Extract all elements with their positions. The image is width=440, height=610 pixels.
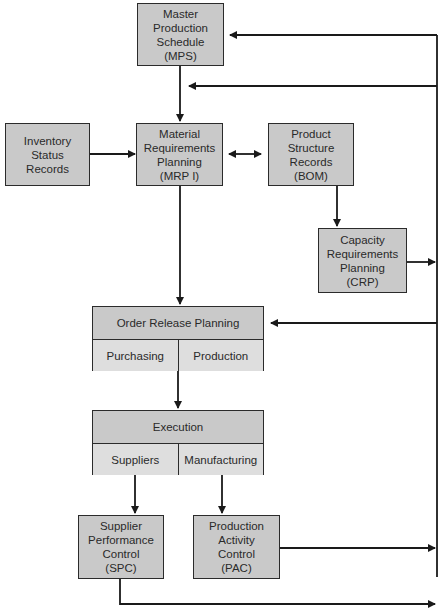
node-mrp-line: (MRP I) [160, 169, 199, 183]
node-spc: Supplier Performance Control (SPC) [78, 515, 164, 579]
node-bom-line: (BOM) [294, 169, 328, 183]
node-pac: Production Activity Control (PAC) [193, 515, 280, 579]
order-release-production: Production [178, 340, 264, 371]
node-execution: Execution Suppliers Manufacturing [92, 410, 264, 475]
order-release-purchasing: Purchasing [93, 340, 178, 371]
node-mps: Master Production Schedule (MPS) [137, 3, 224, 66]
node-spc-line: Supplier [100, 519, 142, 533]
edge-spc-feedback [120, 578, 435, 604]
node-spc-line: Performance [88, 533, 154, 547]
node-crp-line: Requirements [327, 247, 399, 261]
node-pac-line: Control [218, 547, 255, 561]
execution-manufacturing: Manufacturing [178, 444, 264, 475]
node-pac-line: (PAC) [221, 561, 251, 575]
node-spc-line: (SPC) [105, 561, 136, 575]
node-mps-line: (MPS) [164, 49, 197, 63]
node-crp-line: Planning [340, 261, 385, 275]
node-inventory: Inventory Status Records [5, 123, 90, 186]
node-pac-line: Production [209, 519, 264, 533]
node-crp-line: Capacity [340, 233, 385, 247]
node-bom-line: Structure [288, 141, 335, 155]
node-spc-line: Control [102, 547, 139, 561]
execution-title: Execution [93, 411, 263, 444]
node-bom-line: Records [290, 155, 333, 169]
node-crp-line: (CRP) [347, 275, 379, 289]
node-inventory-line: Inventory [24, 134, 71, 148]
order-release-cells: Purchasing Production [93, 340, 263, 371]
order-release-title: Order Release Planning [93, 307, 263, 340]
node-inventory-line: Status [31, 148, 64, 162]
node-mps-line: Master [163, 7, 198, 21]
node-mrp-line: Planning [157, 155, 202, 169]
node-bom-line: Product [291, 127, 331, 141]
execution-suppliers: Suppliers [93, 444, 178, 475]
execution-cells: Suppliers Manufacturing [93, 444, 263, 475]
node-crp: Capacity Requirements Planning (CRP) [318, 228, 407, 293]
node-mrp-line: Requirements [144, 141, 216, 155]
node-bom: Product Structure Records (BOM) [268, 123, 354, 186]
node-mps-line: Schedule [157, 35, 205, 49]
node-order-release: Order Release Planning Purchasing Produc… [92, 306, 264, 371]
node-mrp: Material Requirements Planning (MRP I) [136, 123, 223, 186]
node-pac-line: Activity [218, 533, 254, 547]
node-mps-line: Production [153, 21, 208, 35]
node-inventory-line: Records [26, 162, 69, 176]
node-mrp-line: Material [159, 127, 200, 141]
